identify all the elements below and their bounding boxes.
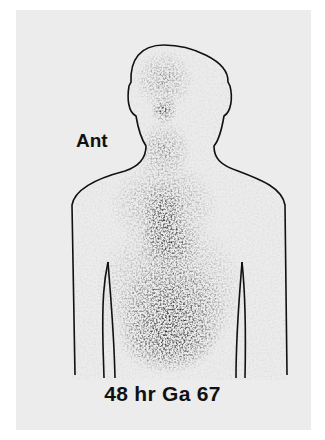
gallium-scan-image — [0, 0, 325, 440]
figure-caption: 48 hr Ga 67 — [0, 382, 325, 406]
uptake-activity — [0, 0, 325, 440]
view-label-anterior: Ant — [76, 130, 108, 152]
